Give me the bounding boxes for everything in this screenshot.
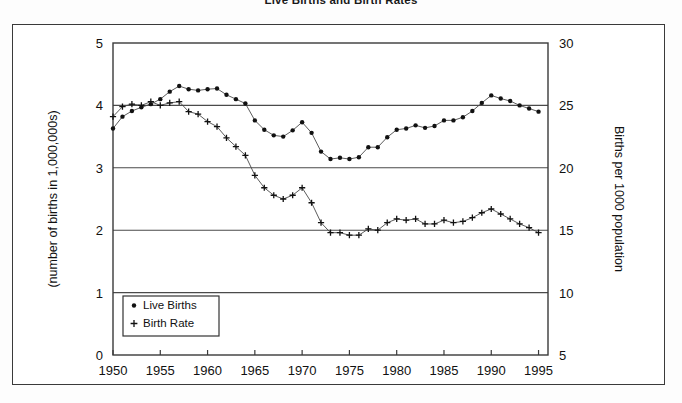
data-point (186, 87, 190, 91)
data-point (243, 101, 247, 105)
data-point (347, 157, 351, 161)
data-point (300, 120, 304, 124)
y2tick-label-25: 25 (559, 98, 573, 113)
ytick-label-5: 5 (96, 36, 103, 51)
data-point (460, 218, 466, 224)
xtick-label-1980: 1980 (382, 363, 411, 378)
data-point (413, 123, 417, 127)
legend-label-live-births: Live Births (143, 299, 197, 311)
data-point (158, 97, 162, 101)
y2tick-label-10: 10 (559, 286, 573, 301)
data-point (404, 126, 408, 130)
y2-axis-title: Births per 1000 population (612, 126, 626, 272)
xtick-label-1990: 1990 (477, 363, 506, 378)
data-point (346, 232, 352, 238)
data-point (479, 210, 485, 216)
legend-dot-icon (132, 303, 136, 307)
chart-legend: Live BirthsBirth Rate (123, 296, 219, 336)
data-point (461, 115, 465, 119)
data-point (413, 216, 419, 222)
data-point (234, 97, 238, 101)
data-point (196, 88, 200, 92)
ytick-label-3: 3 (96, 161, 103, 176)
data-point (205, 87, 209, 91)
data-point (129, 101, 135, 107)
data-point (130, 109, 134, 113)
data-point (536, 109, 540, 113)
data-point (111, 126, 115, 130)
data-point (290, 128, 294, 132)
data-point (281, 134, 285, 138)
data-point (442, 118, 446, 122)
y2tick-label-30: 30 (559, 36, 573, 51)
data-point (168, 89, 172, 93)
xtick-label-1960: 1960 (193, 363, 222, 378)
ytick-label-2: 2 (96, 223, 103, 238)
xtick-label-1975: 1975 (335, 363, 364, 378)
grid-layer (113, 105, 548, 292)
data-point (441, 217, 447, 223)
data-point (423, 126, 427, 130)
data-point (319, 149, 323, 153)
series-layer (110, 84, 542, 238)
data-point (357, 155, 361, 159)
data-point (328, 157, 332, 161)
data-point (480, 101, 484, 105)
data-point (508, 99, 512, 103)
xtick-label-1955: 1955 (146, 363, 175, 378)
data-point (280, 196, 286, 202)
chart-plot-area: 0123455101520253019501955196019651970197… (0, 0, 682, 403)
data-point (394, 216, 400, 222)
axis-title-layer: (number of births in 1,000,000s)Births p… (46, 110, 626, 287)
data-point (488, 206, 494, 212)
ytick-label-1: 1 (96, 286, 103, 301)
series-line-live-births (113, 86, 539, 159)
data-point (366, 145, 370, 149)
series-markers-birth-rate (110, 99, 542, 239)
data-point (376, 145, 380, 149)
xtick-label-1985: 1985 (430, 363, 459, 378)
series-line-birth-rate (113, 102, 539, 236)
ytick-label-0: 0 (96, 348, 103, 363)
legend-label-birth-rate: Birth Rate (143, 317, 194, 329)
data-point (215, 86, 219, 90)
data-point (120, 114, 124, 118)
data-point (469, 215, 475, 221)
data-point (432, 124, 436, 128)
xtick-label-1970: 1970 (288, 363, 317, 378)
data-point (517, 103, 521, 107)
data-point (422, 221, 428, 227)
data-point (403, 217, 409, 223)
xtick-label-1965: 1965 (240, 363, 269, 378)
data-point (338, 156, 342, 160)
xtick-label-1995: 1995 (524, 363, 553, 378)
xtick-label-1950: 1950 (99, 363, 128, 378)
data-point (157, 102, 163, 108)
data-point (253, 118, 257, 122)
data-point (177, 84, 181, 88)
data-point (517, 221, 523, 227)
data-point (385, 135, 389, 139)
chart-page: Live Births and Birth Rates 012345510152… (0, 0, 682, 403)
data-point (450, 220, 456, 226)
y-axis-title: (number of births in 1,000,000s) (46, 110, 60, 287)
data-point (527, 106, 531, 110)
data-point (431, 221, 437, 227)
data-point (308, 200, 314, 206)
y2tick-label-20: 20 (559, 161, 573, 176)
data-point (507, 216, 513, 222)
data-point (272, 133, 276, 137)
data-point (499, 96, 503, 100)
data-point (498, 211, 504, 217)
data-point (470, 109, 474, 113)
data-point (451, 118, 455, 122)
data-point (395, 128, 399, 132)
y2tick-label-15: 15 (559, 223, 573, 238)
data-point (356, 232, 362, 238)
data-point (309, 131, 313, 135)
data-point (262, 128, 266, 132)
data-point (224, 93, 228, 97)
data-point (489, 93, 493, 97)
y2tick-label-5: 5 (559, 348, 566, 363)
ytick-label-4: 4 (96, 98, 103, 113)
